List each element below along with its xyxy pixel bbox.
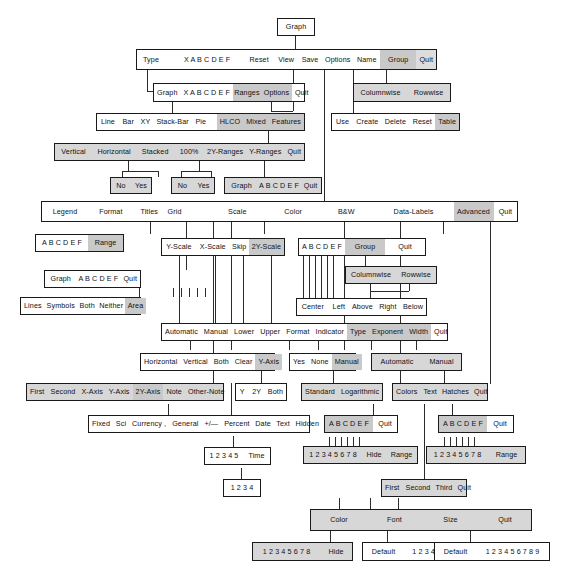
node-format-styles[interactable]: Lines Symbols Both Neither Area <box>20 297 141 315</box>
style-neither[interactable]: Neither <box>98 298 125 314</box>
graphtype-features[interactable]: Features <box>269 114 304 130</box>
hatchesnum-range[interactable]: Range <box>488 447 525 463</box>
scaleset-manual[interactable]: Manual <box>201 324 231 340</box>
node-color-menu[interactable]: Colors Text Hatches Quit <box>392 383 488 401</box>
options-scale[interactable]: Scale <box>208 202 267 221</box>
dlpos-center[interactable]: Center <box>297 299 329 315</box>
yranges-quit[interactable]: Quit <box>300 178 321 193</box>
menu-item-quit[interactable]: Quit <box>416 50 436 69</box>
color-quit[interactable]: Quit <box>471 384 491 400</box>
graphtype-mixed[interactable]: Mixed <box>243 114 269 130</box>
type-item-graph[interactable]: Graph <box>154 84 180 101</box>
textfont-default[interactable]: Default <box>363 543 404 560</box>
scaleset-quit[interactable]: Quit <box>431 324 451 340</box>
noyes1-yes[interactable]: Yes <box>131 178 151 193</box>
grid-both[interactable]: Both <box>211 354 232 370</box>
node-noyes-1[interactable]: No Yes <box>110 177 152 194</box>
item-graph[interactable]: Graph <box>283 19 309 35</box>
ftype-text[interactable]: Text <box>274 416 293 432</box>
time-numbers[interactable]: 1 2 3 4 <box>228 480 257 496</box>
attr-size[interactable]: Size <box>422 510 479 530</box>
style-lines[interactable]: Lines <box>21 298 45 314</box>
name-create[interactable]: Create <box>353 114 381 130</box>
format-quit[interactable]: Quit <box>120 271 140 287</box>
menu-item-name[interactable]: Name <box>353 50 380 69</box>
name-table[interactable]: Table <box>435 114 459 130</box>
gridy-y[interactable]: Y <box>236 384 249 400</box>
options-titles[interactable]: Titles <box>134 202 165 221</box>
scaleset-upper[interactable]: Upper <box>257 324 283 340</box>
colorsnum-hide[interactable]: Hide <box>362 447 386 463</box>
grid-vertical[interactable]: Vertical <box>180 354 210 370</box>
ftype-plusminus[interactable]: +/— <box>201 416 221 432</box>
colorsnum-digits[interactable]: 1 2 3 4 5 6 7 8 <box>304 447 362 463</box>
menu-item-x-abcdef[interactable]: X A B C D E F <box>170 50 244 69</box>
format-graph[interactable]: Graph <box>45 271 76 287</box>
ranges-quit[interactable]: Quit <box>284 144 304 160</box>
node-text-attrs[interactable]: Color Font Size Quit <box>310 509 532 531</box>
group-item-rowwise[interactable]: Rowwise <box>407 84 450 101</box>
ftype-hidden[interactable]: Hidden <box>293 416 322 432</box>
format-abcdef[interactable]: A B C D E F <box>76 271 120 287</box>
indicator-yes[interactable]: Yes <box>290 354 308 370</box>
graphtype-xy[interactable]: XY <box>138 114 154 130</box>
attr-quit[interactable]: Quit <box>479 510 531 530</box>
dlpos-left[interactable]: Left <box>329 299 349 315</box>
graphtype-stack-bar[interactable]: Stack-Bar <box>153 114 191 130</box>
scale-skip[interactable]: Skip <box>230 239 249 255</box>
textcolor-digits[interactable]: 1 2 3 4 5 6 7 8 <box>253 543 320 560</box>
menu-item-save[interactable]: Save <box>298 50 322 69</box>
datalabels-abcdef[interactable]: A B C D E F <box>299 239 345 255</box>
graphtype-hlco[interactable]: HLCO <box>217 114 243 130</box>
noyes1-no[interactable]: No <box>111 178 131 193</box>
node-indicator-menu[interactable]: Yes None Manual <box>289 353 356 371</box>
node-group-menu[interactable]: Columnwise Rowwise <box>353 83 451 102</box>
text-quit[interactable]: Quit <box>454 480 474 496</box>
node-colors-numbers[interactable]: 1 2 3 4 5 6 7 8 Hide Range <box>303 446 418 464</box>
graphtype-pie[interactable]: Pie <box>192 114 210 130</box>
hatchesnum-digits[interactable]: 1 2 3 4 5 6 7 8 <box>427 447 488 463</box>
dlpos-below[interactable]: Below <box>400 299 426 315</box>
text-first[interactable]: First <box>382 480 402 496</box>
type-item-ranges[interactable]: Ranges <box>233 84 261 101</box>
date-time[interactable]: Time <box>243 448 270 464</box>
titles-second[interactable]: Second <box>47 384 78 400</box>
color-hatches[interactable]: Hatches <box>440 384 471 400</box>
graphtype-bar[interactable]: Bar <box>119 114 138 130</box>
node-grid-yaxis-menu[interactable]: Y 2Y Both <box>235 383 287 401</box>
name-delete[interactable]: Delete <box>381 114 409 130</box>
node-root[interactable]: Graph <box>277 18 315 36</box>
ranges-vertical[interactable]: Vertical <box>55 144 92 160</box>
dlpos-right[interactable]: Right <box>376 299 400 315</box>
ranges-y-ranges[interactable]: Y-Ranges <box>246 144 284 160</box>
gridy-both[interactable]: Both <box>265 384 286 400</box>
name-use[interactable]: Use <box>332 114 353 130</box>
options-data-labels[interactable]: Data-Labels <box>373 202 454 221</box>
titles-y-axis[interactable]: Y-Axis <box>106 384 133 400</box>
scale-y-scale[interactable]: Y-Scale <box>162 239 196 255</box>
scaleset-width[interactable]: Width <box>406 324 431 340</box>
style-area[interactable]: Area <box>125 298 147 314</box>
titles-note[interactable]: Note <box>163 384 185 400</box>
name-reset[interactable]: Reset <box>409 114 435 130</box>
ftype-date[interactable]: Date <box>253 416 274 432</box>
scaleset-lower[interactable]: Lower <box>231 324 257 340</box>
node-datalabels-group[interactable]: Columnwise Rowwise <box>345 266 437 284</box>
color-colors[interactable]: Colors <box>393 384 420 400</box>
textcolor-hide[interactable]: Hide <box>320 543 352 560</box>
node-hatches-numbers[interactable]: 1 2 3 4 5 6 7 8 Range <box>426 446 526 464</box>
node-grid-menu[interactable]: Horizontal Vertical Both Clear Y-Axis <box>140 353 275 371</box>
noyes2-no[interactable]: No <box>172 178 193 193</box>
menu-item-view[interactable]: View <box>274 50 298 69</box>
legend-abcdef[interactable]: A B C D E F <box>36 235 88 251</box>
node-graph-types[interactable]: Line Bar XY Stack-Bar Pie HLCO Mixed Fea… <box>96 113 305 131</box>
gridy-2y[interactable]: 2Y <box>249 384 265 400</box>
colorsabc-quit[interactable]: Quit <box>373 416 397 432</box>
node-scale-settings[interactable]: Automatic Manual Lower Upper Format Indi… <box>161 323 448 341</box>
attr-font[interactable]: Font <box>367 510 422 530</box>
node-name-menu[interactable]: Use Create Delete Reset Table <box>331 113 460 131</box>
style-symbols[interactable]: Symbols <box>45 298 77 314</box>
options-format[interactable]: Format <box>88 202 134 221</box>
ftype-currency[interactable]: Currency , <box>129 416 169 432</box>
node-options-menu[interactable]: Legend Format Titles Grid Scale Color B&… <box>41 201 518 222</box>
